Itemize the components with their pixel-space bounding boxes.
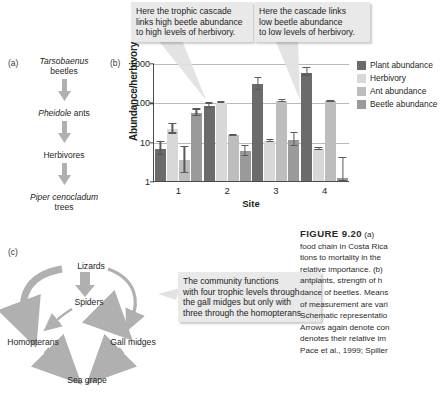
error-bar [233, 134, 234, 136]
legend-label: Ant abundance [370, 87, 426, 96]
caption-line: antplants, strength of h [300, 275, 446, 287]
caption-line: relative importance. (b) [300, 264, 446, 276]
node-common-herbivores: Herbivores [43, 150, 84, 160]
bar-group: 2 [203, 64, 252, 181]
legend-item: Beetle abundance [357, 100, 446, 109]
error-bar [257, 77, 258, 90]
y-tick-label: 1000 [130, 60, 150, 69]
caption-line: of measurement are vari [300, 299, 446, 311]
error-bar [209, 102, 210, 108]
legend-label: Plant abundance [370, 61, 433, 70]
x-tick-label: 3 [273, 185, 278, 196]
caption-line: food chain in Costa Rica [300, 241, 446, 253]
error-bar [172, 123, 173, 134]
node-genus-piper: Piper cenocladum [30, 192, 98, 202]
callout-line: three through the homopterans [183, 308, 316, 319]
callout-line: low beetle abundance [259, 17, 365, 28]
figure-number: FIGURE 9.20 [300, 228, 362, 239]
node-common-beetles: beetles [50, 66, 77, 76]
legend-label: Herbivory [370, 74, 406, 83]
food-chain-node-piper: Piper cenocladum trees [14, 192, 114, 212]
plot-frame: 11010010001234 [153, 64, 349, 182]
web-node-sea-grape: Sea grape [52, 375, 122, 385]
node-genus-tarsobaenus: Tarsobaenus [40, 56, 89, 66]
legend-item: Ant abundance [357, 87, 446, 96]
down-arrow-icon [58, 121, 71, 143]
food-chain-node-ants: Pheidole ants [14, 108, 114, 118]
y-axis-label: Abundance/herbivory [128, 42, 139, 142]
callout-line: Here the trophic cascade [136, 6, 248, 17]
bar-beetle-abundance [288, 140, 299, 181]
error-bar [342, 157, 343, 182]
callout-line: The community functions [183, 276, 316, 287]
arrow-homopterans-seagrape [46, 350, 63, 366]
panel-a-chain: Tarsobaenus beetles Pheidole ants Herbiv… [14, 56, 114, 212]
callout-line: to high levels of herbivory. [136, 27, 248, 38]
food-chain-node-herbivores: Herbivores [14, 150, 114, 160]
callout-line: with four trophic levels through [183, 287, 316, 298]
bar-group: 1 [154, 64, 203, 181]
legend-swatch [357, 74, 366, 83]
callout-line: Here the cascade links [259, 6, 365, 17]
callout-high-cascade: Here the trophic cascade links high beet… [131, 2, 253, 42]
bar-groups: 1234 [154, 64, 349, 181]
bar-beetle-abundance [337, 178, 348, 181]
error-bar [293, 132, 294, 146]
figure-9-20: (a) Tarsobaenus beetles Pheidole ants He… [0, 0, 446, 410]
error-bar [221, 101, 222, 103]
web-node-spiders: Spiders [58, 297, 120, 307]
error-bar [330, 100, 331, 102]
bar-plant-abundance [252, 84, 263, 181]
caption-line: tions to mortality in the [300, 252, 446, 264]
bar-ant-abundance [228, 135, 239, 181]
arrow-gallmidges-seagrape [105, 350, 122, 366]
panel-b-tag: (b) [110, 58, 120, 68]
x-tick-label: 1 [176, 185, 181, 196]
bar-beetle-abundance [240, 151, 251, 181]
caption-line: Arrows again denote con [300, 322, 446, 334]
bar-ant-abundance [179, 160, 190, 181]
bar-fill [276, 101, 287, 181]
legend-item: Herbivory [357, 74, 446, 83]
panel-a-food-chain: (a) Tarsobaenus beetles Pheidole ants He… [0, 56, 115, 221]
caption-part: (a) [364, 230, 374, 239]
bar-beetle-abundance [191, 113, 202, 181]
error-bar [184, 146, 185, 173]
error-bar [196, 108, 197, 116]
caption-line: Schematic representatio [300, 310, 446, 322]
bar-herbivory [167, 129, 178, 181]
error-bar [306, 67, 307, 75]
bar-fill [313, 149, 324, 181]
down-arrow-icon [58, 79, 71, 101]
bar-fill [167, 129, 178, 181]
legend-label: Beetle abundance [370, 100, 438, 109]
callout-low-cascade: Here the cascade links low beetle abunda… [254, 2, 370, 42]
panel-b-bar-chart: (b) Abundance/herbivory 11010010001234 S… [108, 56, 373, 221]
chart-legend: Plant abundanceHerbivoryAnt abundanceBee… [357, 61, 446, 113]
bar-fill [228, 135, 239, 181]
bar-plant-abundance [155, 149, 166, 181]
legend-swatch [357, 61, 366, 70]
bar-herbivory [313, 149, 324, 181]
node-common-ants: ants [74, 108, 90, 118]
bar-plant-abundance [301, 73, 312, 181]
callout-line: to low levels of herbivory. [259, 27, 365, 38]
error-bar [269, 139, 270, 142]
x-tick-label: 4 [322, 185, 327, 196]
bar-fill [216, 103, 227, 181]
bar-ant-abundance [325, 101, 336, 181]
error-bar [318, 147, 319, 150]
arrow-lizards-homopterans [24, 269, 62, 323]
arrow-lizards-spiders [75, 272, 95, 297]
bar-fill [325, 101, 336, 181]
node-genus-pheidole: Pheidole [38, 108, 71, 118]
y-tick-label: 10 [140, 138, 150, 147]
x-axis-label: Site [153, 198, 349, 209]
error-bar [245, 145, 246, 156]
plot-area: 11010010001234 [153, 64, 349, 182]
bar-fill [204, 106, 215, 181]
bar-fill [301, 73, 312, 181]
node-common-trees: trees [55, 202, 74, 212]
bar-ant-abundance [276, 101, 287, 181]
bar-fill [252, 84, 263, 181]
